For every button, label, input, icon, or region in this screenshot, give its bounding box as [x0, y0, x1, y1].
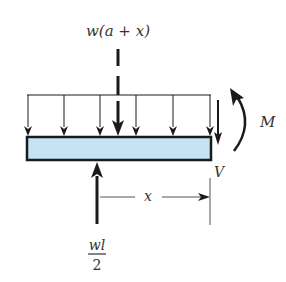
reaction-arrow [91, 162, 103, 224]
moment-arrow [230, 88, 245, 151]
distance-label: x [144, 188, 152, 204]
distance-dimension [100, 178, 210, 225]
free-body-diagram: w(a + x) V M wl 2 x [0, 0, 286, 282]
resultant-load-label: w(a + x) [86, 22, 150, 40]
shear-label: V [214, 164, 226, 180]
load-arrow [60, 95, 68, 136]
load-arrow [96, 95, 104, 136]
load-arrow [169, 95, 177, 136]
resultant-load-arrow [112, 49, 124, 136]
moment-label: M [259, 113, 276, 131]
load-arrow [206, 95, 214, 136]
load-arrow [24, 95, 32, 136]
load-arrow [132, 95, 140, 136]
beam-segment [27, 137, 211, 160]
shear-arrow [214, 100, 222, 145]
reaction-denominator: 2 [93, 257, 102, 273]
reaction-numerator: wl [89, 237, 105, 253]
reaction-label: wl 2 [88, 237, 106, 273]
